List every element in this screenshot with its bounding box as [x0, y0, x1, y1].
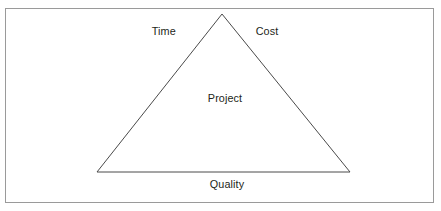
label-time: Time [152, 25, 176, 38]
label-cost: Cost [256, 25, 279, 38]
label-project: Project [197, 92, 253, 105]
label-quality: Quality [197, 178, 257, 191]
diagram-canvas: Time Cost Project Quality [0, 0, 441, 211]
